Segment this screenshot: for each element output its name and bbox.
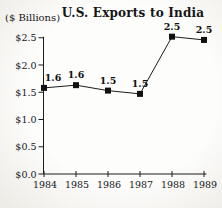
data-point-marker	[73, 82, 79, 88]
data-point-label: 2.5	[196, 24, 213, 35]
y-tick-label: $0.5	[15, 141, 36, 152]
data-point-marker	[41, 85, 47, 91]
x-tick-label: 1986	[97, 179, 121, 190]
y-tick-label: $1.0	[15, 114, 36, 125]
data-point-label: 1.6	[45, 72, 62, 83]
x-tick-label: 1984	[33, 179, 57, 190]
data-point-marker	[169, 34, 175, 40]
chart-figure: U.S. Exports to India ($ Billions) $0.0$…	[0, 0, 222, 208]
line-chart-plot: $0.0$0.5$1.0$1.5$2.0$2.51984198519861987…	[0, 0, 222, 208]
x-tick-label: 1988	[161, 179, 185, 190]
data-point-label: 2.5	[164, 21, 181, 32]
y-tick-label: $1.5	[15, 87, 36, 98]
x-tick-label: 1985	[65, 179, 89, 190]
data-point-marker	[201, 37, 207, 43]
data-point-label: 1.5	[100, 75, 117, 86]
y-tick-label: $0.0	[15, 169, 36, 180]
x-tick-label: 1987	[129, 179, 153, 190]
data-point-label: 1.6	[68, 69, 85, 80]
y-tick-label: $2.5	[15, 32, 36, 43]
x-tick-label: 1989	[193, 179, 217, 190]
y-tick-label: $2.0	[15, 60, 36, 71]
data-point-marker	[137, 91, 143, 97]
data-line	[44, 37, 204, 94]
data-point-label: 1.5	[132, 78, 149, 89]
data-point-marker	[105, 88, 111, 94]
